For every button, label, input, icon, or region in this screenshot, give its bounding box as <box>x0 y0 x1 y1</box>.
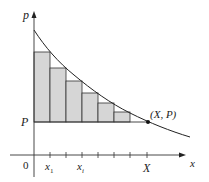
x-axis-label: x <box>190 158 195 169</box>
riemann-rectangles <box>34 52 130 122</box>
point-X-P <box>146 120 150 124</box>
point-X-P-label: (X, P) <box>150 109 176 120</box>
X-tick-label: X <box>143 162 150 174</box>
rectangle-4 <box>82 93 98 122</box>
rectangle-1 <box>34 52 50 122</box>
rectangle-5 <box>98 103 114 122</box>
xi-tick-label: xi <box>77 161 84 175</box>
origin-label: 0 <box>23 160 29 171</box>
price-level-label: P <box>21 116 28 128</box>
demand-curve-diagram <box>0 0 209 182</box>
x-axis-arrow-icon <box>179 153 186 158</box>
rectangle-3 <box>66 81 82 122</box>
y-axis-arrow-icon <box>32 11 37 18</box>
y-axis-label: p <box>23 9 29 21</box>
x1-tick-label: x1 <box>45 161 53 175</box>
rectangle-2 <box>50 68 66 122</box>
rectangle-6 <box>114 112 130 122</box>
